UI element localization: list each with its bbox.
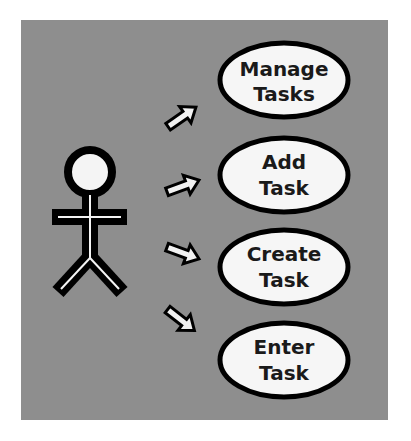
use-case-add-task[interactable]: Add Task [220, 138, 348, 212]
use-case-create-task[interactable]: Create Task [220, 230, 348, 304]
arrow-icon [162, 99, 201, 135]
use-case-label-line2: Task [259, 176, 309, 200]
use-case-label-line2: Task [259, 361, 309, 385]
arrow-icon [164, 171, 203, 201]
use-case-enter-task[interactable]: Enter Task [220, 323, 348, 397]
arrow-icon [164, 238, 203, 268]
arrow-icon [161, 302, 200, 339]
use-case-diagram: Manage Tasks Add Task Create Task Enter … [0, 0, 411, 441]
use-case-label-line1: Add [262, 150, 306, 174]
use-case-label-line1: Enter [254, 335, 315, 359]
use-case-label-line2: Tasks [253, 82, 315, 106]
use-case-label-line1: Create [247, 242, 322, 266]
use-case-label-line2: Task [259, 268, 309, 292]
use-case-manage-tasks[interactable]: Manage Tasks [220, 43, 348, 117]
actor-stick-figure-icon [52, 150, 127, 292]
use-case-label-line1: Manage [239, 57, 328, 81]
